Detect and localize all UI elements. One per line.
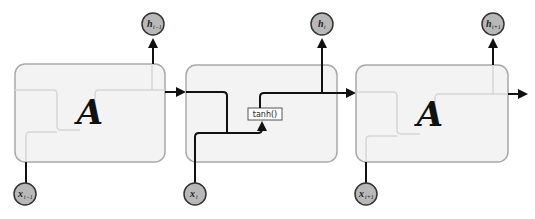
cell-next: A: [356, 40, 526, 183]
node-subscript: t−1: [153, 24, 162, 30]
node-label: x: [189, 188, 195, 199]
output-node-current: h t: [311, 13, 333, 35]
node-subscript: t+1: [365, 194, 374, 200]
input-node-next: x t+1: [355, 183, 377, 205]
node-subscript: t−1: [24, 194, 33, 200]
cell-label: A: [74, 92, 103, 132]
cell-label: A: [414, 94, 443, 134]
input-node-current: x t: [184, 183, 206, 205]
input-node-prev: x t−1: [14, 183, 36, 205]
node-circle: [184, 183, 206, 205]
node-subscript: t+1: [492, 24, 501, 30]
rnn-unrolled-diagram: A tanh() A h t−: [0, 0, 535, 219]
cell-current: tanh(): [186, 40, 337, 183]
node-label: x: [17, 188, 23, 199]
node-label: x: [358, 188, 364, 199]
output-node-next: h t+1: [482, 13, 504, 35]
cell-prev: A: [15, 40, 165, 183]
tanh-label: tanh(): [253, 110, 277, 119]
output-node-prev: h t−1: [142, 13, 164, 35]
